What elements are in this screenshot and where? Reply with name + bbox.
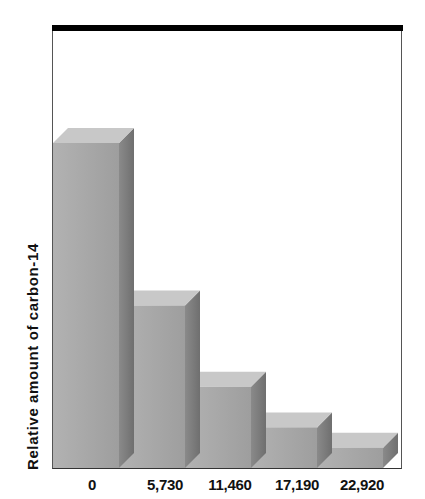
bar-plot-area xyxy=(0,0,425,499)
x-tick-label: 0 xyxy=(88,476,96,493)
x-tick-label: 5,730 xyxy=(147,476,183,493)
bar-0 xyxy=(53,128,134,468)
x-tick-label: 17,190 xyxy=(275,476,319,493)
y-axis-label: Relative amount of carbon-14 xyxy=(24,243,41,470)
x-tick-label: 22,920 xyxy=(340,476,384,493)
x-tick-label: 11,460 xyxy=(208,476,251,493)
